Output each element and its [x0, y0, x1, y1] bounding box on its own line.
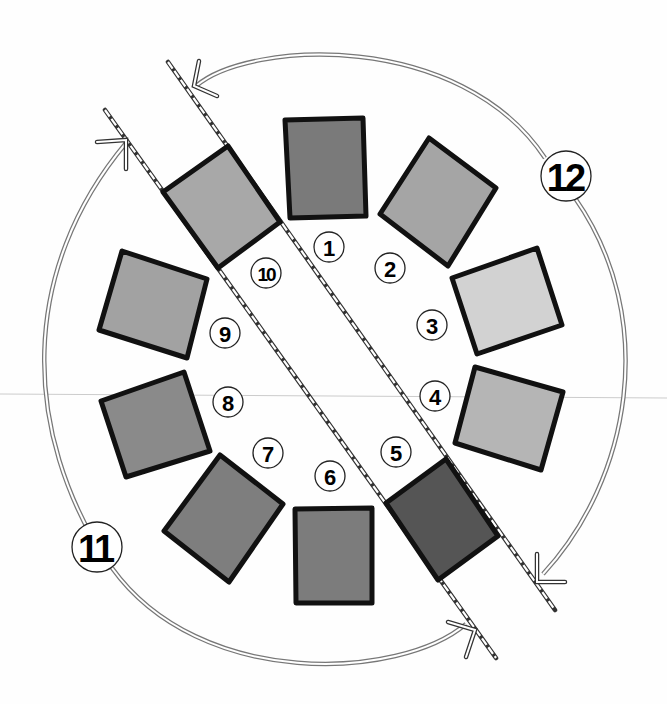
svg-text:5: 5 [390, 441, 402, 466]
panel-8 [101, 372, 210, 477]
rotation-diagram: 12345678910 11 12 [0, 0, 667, 704]
panel-7 [164, 455, 283, 582]
panel-number-6: 6 [315, 461, 345, 491]
svg-text:4: 4 [429, 385, 442, 410]
svg-text:12: 12 [547, 157, 585, 199]
panel-number-9: 9 [210, 318, 240, 348]
panel-4 [455, 367, 563, 470]
svg-text:6: 6 [324, 465, 336, 490]
svg-text:11: 11 [78, 528, 115, 570]
panel-9 [99, 251, 207, 358]
svg-text:10: 10 [257, 264, 276, 285]
scan-artifact-line [0, 394, 667, 398]
panel-group [99, 118, 563, 603]
panel-number-7: 7 [253, 438, 283, 468]
arrowhead-bottom-icon [448, 622, 475, 657]
arc-label-11: 11 [72, 522, 122, 572]
svg-text:3: 3 [426, 314, 438, 339]
panel-6 [295, 508, 372, 603]
panel-number-8: 8 [213, 387, 243, 417]
label-group: 12345678910 [210, 232, 450, 491]
panel-number-5: 5 [381, 437, 411, 467]
panel-number-4: 4 [420, 381, 450, 411]
panel-1 [285, 118, 366, 218]
panel-2 [380, 138, 496, 266]
panel-number-10: 10 [251, 258, 281, 288]
svg-text:2: 2 [384, 257, 396, 282]
panel-number-2: 2 [375, 253, 405, 283]
panel-10 [163, 146, 280, 268]
svg-text:7: 7 [262, 442, 274, 467]
panel-5 [386, 459, 498, 580]
panel-number-3: 3 [417, 310, 447, 340]
svg-text:8: 8 [222, 391, 234, 416]
panel-number-1: 1 [314, 232, 344, 262]
svg-text:1: 1 [323, 236, 335, 261]
svg-text:9: 9 [219, 322, 231, 347]
diagram-canvas: 12345678910 11 12 [0, 0, 667, 704]
panel-3 [452, 248, 562, 354]
arc-label-12: 12 [541, 151, 591, 201]
